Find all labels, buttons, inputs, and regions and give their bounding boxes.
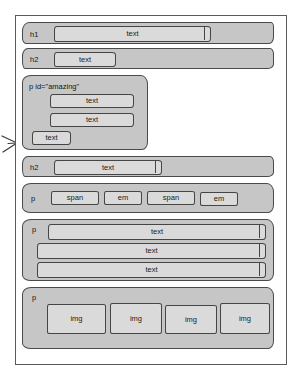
inline-box-text[interactable]: text [37,243,266,259]
tag-label-h1: h1 [30,31,38,39]
inline-box-text[interactable]: text [37,262,266,278]
inline-box-label: text [126,30,138,38]
inline-box-label: img [70,315,82,323]
inline-box-em[interactable]: em [200,192,238,206]
inline-box-label: text [145,247,157,255]
inline-box-label: text [45,134,57,142]
inline-box-label: text [86,97,98,105]
tag-label-h2-second: h2 [30,164,38,172]
inline-box-label: em [214,195,224,203]
inline-box-label: img [130,315,142,323]
block-p-images[interactable]: p img img img img [22,287,274,349]
diagram-title: HTML element box structure sketch [0,0,1,1]
inline-box-text[interactable]: text [54,26,211,42]
tag-label-h2-first: h2 [30,56,38,64]
tag-label-p-amazing: p id="amazing" [29,83,79,91]
tag-label-p-images: p [32,294,36,302]
inline-box-label: text [86,116,98,124]
inline-box-label: text [151,228,163,236]
inline-box-text[interactable]: text [54,52,116,67]
inline-box-label: em [118,194,128,202]
block-h1[interactable]: h1 text [22,22,274,44]
inline-box-label: text [145,266,157,274]
inline-box-text[interactable]: text [54,160,162,175]
inline-box-text[interactable]: text [50,113,134,127]
block-h2-second[interactable]: h2 text [22,156,274,177]
sketch-diagram: h1 text h2 text p id="amazing" text text… [0,0,303,377]
inline-box-label: span [67,194,83,202]
inline-box-span[interactable]: span [147,191,195,205]
inline-box-label: text [102,164,114,172]
inline-box-span[interactable]: span [51,191,99,205]
inline-box-label: img [185,316,197,324]
inline-box-em[interactable]: em [104,191,142,205]
document-frame: h1 text h2 text p id="amazing" text text… [15,15,287,365]
inline-box-img[interactable]: img [165,305,217,334]
inline-box-text[interactable]: text [48,224,266,240]
inline-box-label: text [79,56,91,64]
block-p-amazing[interactable]: p id="amazing" text text text [22,75,148,150]
block-p-inline[interactable]: p span em span em [22,183,274,213]
inline-box-img[interactable]: img [110,303,162,334]
block-p-text-lines[interactable]: p text text text [22,219,274,281]
inline-box-text[interactable]: text [32,131,71,145]
inline-box-text[interactable]: text [50,94,134,108]
inline-box-img[interactable]: img [47,304,106,334]
inline-box-label: img [239,315,251,323]
tag-label-p-text-lines: p [32,226,36,234]
inline-box-label: span [163,194,179,202]
inline-box-img[interactable]: img [220,303,270,334]
tag-label-p-inline: p [31,195,35,203]
block-h2-first[interactable]: h2 text [22,48,274,69]
